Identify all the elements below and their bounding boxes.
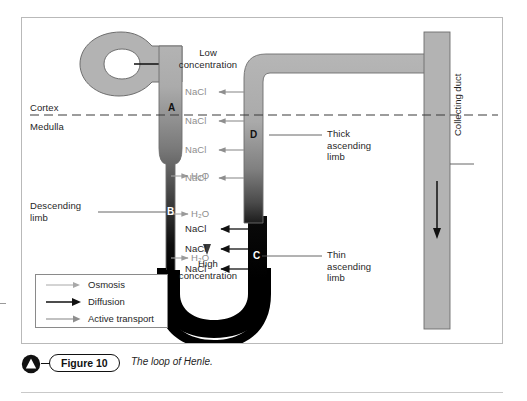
nacl-diffusion-label-2: NaCl (185, 243, 207, 255)
nacl-diffusion-label-1: NaCl (185, 223, 207, 235)
figure-caption-text: The loop of Henle. (131, 356, 213, 367)
osmosis-arrow-icon (44, 276, 84, 294)
leader-lines (98, 135, 474, 256)
collecting-duct (424, 32, 450, 329)
marker-a: A (168, 102, 175, 114)
thin-ascending-limb-label: Thin ascending limb (327, 249, 371, 284)
nacl-active-label-2: NaCl (185, 115, 207, 127)
descending-limb-label: Descending limb (30, 200, 81, 223)
medulla-label: Medulla (30, 121, 64, 133)
page-bottom-rule (21, 392, 503, 401)
nacl-active-label-4: NaCl (185, 172, 207, 184)
marker-b: B (167, 206, 174, 218)
legend-label-diffusion: Diffusion (88, 296, 125, 307)
marker-c: C (253, 250, 260, 262)
nacl-active-label-1: NaCl (185, 86, 207, 98)
legend-label-active-transport: Active transport (88, 313, 154, 324)
legend-label-osmosis: Osmosis (88, 279, 125, 290)
cortex-label: Cortex (30, 102, 59, 114)
collecting-duct-label: Collecting duct (452, 74, 463, 136)
thin-ascending-limb (248, 216, 267, 278)
legend-item-active-transport: Active transport (36, 310, 169, 328)
page-edge-mark (0, 303, 6, 304)
descending-limb (159, 46, 182, 272)
diffusion-arrow-icon (44, 293, 84, 311)
figure-panel: Cortex Medulla Low concentration High co… (21, 17, 503, 344)
h2o-label-2: H₂O (191, 208, 209, 220)
active-transport-arrow-icon (44, 310, 84, 328)
triangle-badge-icon (21, 354, 41, 374)
figure-page: Cortex Medulla Low concentration High co… (0, 0, 527, 401)
legend-item-osmosis: Osmosis (36, 276, 169, 294)
marker-d: D (250, 129, 257, 141)
active-transport-arrows (219, 92, 244, 178)
figure-caption: Figure 10 The loop of Henle. (21, 352, 503, 376)
legend-item-diffusion: Diffusion (36, 293, 169, 311)
legend: Osmosis Diffusion Active transport (35, 274, 168, 328)
thick-ascending-limb-label: Thick ascending limb (327, 128, 371, 163)
nacl-diffusion-label-3: NaCl (185, 263, 207, 275)
nacl-active-label-3: NaCl (185, 144, 207, 156)
low-concentration-label: Low concentration (173, 47, 243, 70)
figure-number-pill: Figure 10 (49, 354, 120, 372)
